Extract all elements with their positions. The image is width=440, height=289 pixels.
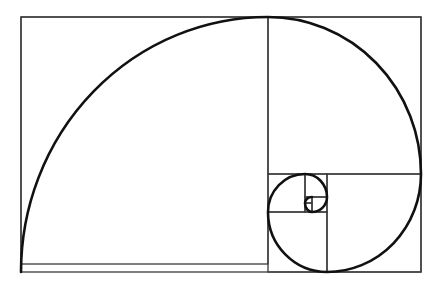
fibonacci-squares — [21, 17, 421, 272]
golden-spiral-diagram — [0, 0, 440, 289]
fibonacci-square-1 — [21, 17, 268, 264]
fibonacci-square-3 — [327, 174, 421, 272]
golden-spiral-curve — [21, 17, 421, 272]
fibonacci-square-2 — [268, 17, 421, 174]
outer-golden-rectangle — [21, 17, 421, 272]
